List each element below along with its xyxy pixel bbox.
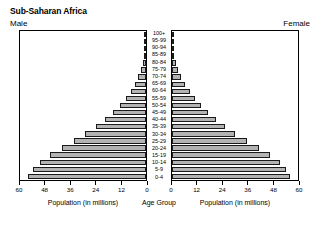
female-bar-60-64 [172, 89, 190, 94]
female-axis-caption: Population (in millions) [171, 199, 299, 206]
bar-row [20, 52, 146, 59]
bar-row [20, 81, 146, 88]
population-pyramid-figure: Sub-Saharan Africa Male Female 100+95-99… [0, 0, 320, 228]
bar-row [20, 145, 146, 152]
bar-row [20, 102, 146, 109]
male-axis-tick [121, 181, 122, 185]
male-bar-70-74 [138, 74, 146, 79]
bar-row [20, 45, 146, 52]
bar-row [172, 102, 298, 109]
female-bar-5-9 [172, 167, 286, 172]
female-axis-tick [247, 181, 248, 185]
male-x-axis: 60483624120 [19, 181, 147, 195]
male-bar-0-4 [28, 174, 146, 179]
male-axis-tick-label: 48 [41, 186, 48, 193]
age-group-label: 35-39 [147, 123, 171, 130]
age-group-label: 55-59 [147, 95, 171, 102]
bar-row [20, 130, 146, 137]
male-axis-caption: Population (in millions) [19, 199, 147, 206]
bar-row [172, 81, 298, 88]
female-bar-35-39 [172, 124, 225, 129]
female-bar-100plus [172, 32, 174, 37]
bar-row [172, 74, 298, 81]
female-bar-45-49 [172, 110, 208, 115]
male-plot-panel [19, 30, 147, 181]
age-group-label: 60-64 [147, 88, 171, 95]
female-bar-55-59 [172, 96, 195, 101]
bar-row [172, 38, 298, 45]
age-group-label: 25-29 [147, 138, 171, 145]
bar-row [172, 59, 298, 66]
bar-row [20, 173, 146, 180]
female-bar-95-99 [172, 39, 174, 44]
male-axis-tick-label: 24 [92, 186, 99, 193]
male-bar-60-64 [131, 89, 146, 94]
male-axis-tick [147, 181, 148, 185]
male-bar-100plus [144, 32, 146, 37]
male-bar-55-59 [126, 96, 146, 101]
female-bar-40-44 [172, 117, 216, 122]
female-axis-tick [171, 181, 172, 185]
bar-row [172, 88, 298, 95]
female-bar-80-84 [172, 60, 176, 65]
female-panel-label: Female [283, 19, 310, 28]
age-group-label: 30-34 [147, 131, 171, 138]
bar-row [172, 45, 298, 52]
female-axis-tick [299, 181, 300, 185]
male-bar-25-29 [74, 138, 146, 143]
bar-row [20, 152, 146, 159]
male-bar-90-94 [144, 46, 146, 51]
bar-row [172, 173, 298, 180]
bar-row [20, 116, 146, 123]
bar-row [172, 109, 298, 116]
bar-row [172, 130, 298, 137]
bar-row [20, 137, 146, 144]
age-group-label: 0-4 [147, 174, 171, 181]
female-bar-0-4 [172, 174, 290, 179]
bar-row [172, 145, 298, 152]
bar-row [20, 166, 146, 173]
female-axis-tick-label: 60 [296, 186, 303, 193]
bar-row [20, 31, 146, 38]
age-group-label: 80-84 [147, 59, 171, 66]
male-axis-tick-label: 36 [67, 186, 74, 193]
male-bar-65-69 [135, 82, 146, 87]
bar-row [172, 123, 298, 130]
bar-row [20, 159, 146, 166]
male-bar-50-54 [120, 103, 146, 108]
male-bar-15-19 [50, 152, 146, 157]
female-bar-rows [172, 31, 298, 180]
female-x-axis: 01224364860 [171, 181, 299, 195]
female-axis-tick-label: 0 [169, 186, 172, 193]
age-group-label: 5-9 [147, 167, 171, 174]
male-bar-35-39 [96, 124, 146, 129]
bar-row [20, 74, 146, 81]
male-bar-75-79 [141, 67, 146, 72]
bar-row [20, 59, 146, 66]
female-bar-10-14 [172, 160, 280, 165]
bar-row [172, 31, 298, 38]
bar-row [20, 123, 146, 130]
male-bar-45-49 [113, 110, 146, 115]
age-group-labels: 100+95-9990-9485-8980-8475-7970-7465-696… [147, 30, 171, 181]
male-bar-10-14 [40, 160, 146, 165]
female-bar-85-89 [172, 53, 174, 58]
female-plot-panel [171, 30, 299, 181]
bar-row [20, 66, 146, 73]
female-bar-90-94 [172, 46, 174, 51]
bar-row [20, 109, 146, 116]
male-axis-tick [95, 181, 96, 185]
female-axis-tick-label: 48 [270, 186, 277, 193]
bar-row [172, 137, 298, 144]
female-bar-65-69 [172, 82, 185, 87]
bar-row [172, 166, 298, 173]
female-bar-50-54 [172, 103, 201, 108]
male-bar-rows [20, 31, 146, 180]
female-bar-20-24 [172, 145, 259, 150]
male-bar-30-34 [85, 131, 146, 136]
female-bar-75-79 [172, 67, 178, 72]
female-axis-tick-label: 36 [244, 186, 251, 193]
female-axis-tick [222, 181, 223, 185]
male-axis-tick-label: 0 [145, 186, 148, 193]
bar-row [172, 152, 298, 159]
